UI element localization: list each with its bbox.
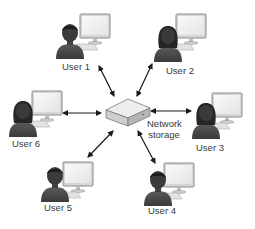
network-storage-icon: [106, 99, 150, 126]
network-storage-label: Network storage: [147, 118, 181, 140]
user3-label: User 3: [196, 143, 224, 153]
network-storage-label-line1: Network: [147, 118, 181, 129]
user1-workstation: [56, 14, 110, 59]
user1-label: User 1: [62, 62, 90, 72]
user6-workstation: [9, 91, 62, 137]
network-storage-label-line2: storage: [147, 129, 181, 140]
user5-label: User 5: [44, 203, 72, 213]
user3-workstation: [192, 93, 242, 139]
arrow-user1-storage: [99, 66, 114, 96]
user2-workstation: [154, 14, 206, 62]
user2-label: User 2: [166, 66, 194, 76]
arrow-user2-storage: [137, 64, 152, 96]
user6-label: User 6: [12, 139, 40, 149]
user4-workstation: [144, 163, 194, 206]
network-diagram: [0, 0, 255, 229]
user5-workstation: [41, 162, 93, 202]
arrow-user5-storage: [88, 131, 113, 157]
user4-label: User 4: [148, 206, 176, 216]
